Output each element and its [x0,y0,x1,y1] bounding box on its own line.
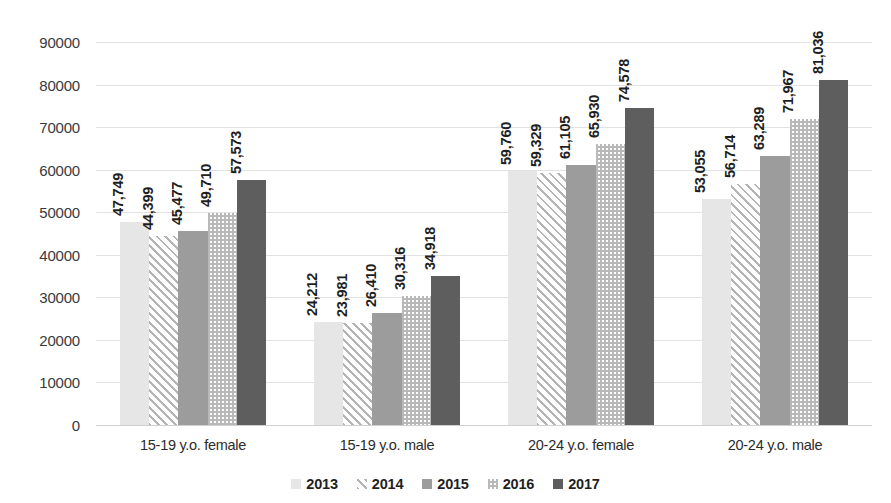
bar-2013-4[interactable] [702,199,731,425]
y-axis-tick-label: 20000 [39,331,80,348]
bar-2016-3[interactable] [596,144,625,425]
bar-2016-4[interactable] [790,119,819,425]
legend-label: 2017 [568,476,599,492]
bar-2017-2[interactable] [431,276,460,425]
bar-slot: 26,410 [372,42,401,425]
bar-value-label: 71,967 [780,70,796,113]
bar-slot: 34,918 [431,42,460,425]
bar-slot: 59,760 [508,42,537,425]
bar-value-label: 61,105 [557,116,573,159]
bar-value-label: 74,578 [616,58,632,101]
bar-value-label: 49,710 [198,164,214,207]
bar-value-label: 23,981 [334,274,350,317]
bar-2016-1[interactable] [208,213,237,425]
y-axis-tick-label: 0 [72,417,80,434]
legend-swatch-icon [422,479,432,489]
legend-swatch-icon [357,479,367,489]
bar-value-label: 57,573 [228,131,244,174]
legend-item-2016[interactable]: 2016 [488,476,534,492]
bar-group: 24,21223,98126,41030,31634,918 [314,42,460,425]
y-axis: 0100002000030000400005000060000700008000… [0,0,86,503]
bar-2013-2[interactable] [314,322,343,425]
bar-slot: 56,714 [731,42,760,425]
y-axis-tick-label: 80000 [39,76,80,93]
bar-2016-2[interactable] [402,296,431,425]
bar-value-label: 65,930 [586,95,602,138]
y-axis-tick-label: 10000 [39,374,80,391]
legend-item-2015[interactable]: 2015 [422,476,468,492]
bar-group-bars: 59,76059,32961,10565,93074,578 [508,42,654,425]
y-axis-tick-label: 50000 [39,204,80,221]
plot-area: 47,74944,39945,47749,71057,57324,21223,9… [96,42,872,425]
legend-label: 2014 [372,476,403,492]
legend-swatch-icon [291,479,301,489]
bar-2013-1[interactable] [120,222,149,425]
legend-label: 2015 [437,476,468,492]
bar-2015-2[interactable] [372,313,401,425]
legend-item-2013[interactable]: 2013 [291,476,337,492]
bar-2014-3[interactable] [537,173,566,425]
bar-value-label: 34,918 [422,227,438,270]
bar-chart: 0100002000030000400005000060000700008000… [0,0,891,503]
y-axis-tick-label: 40000 [39,246,80,263]
bar-slot: 23,981 [343,42,372,425]
y-axis-tick-label: 70000 [39,119,80,136]
bar-2015-3[interactable] [566,165,595,425]
gridline [96,425,872,426]
x-axis-category-label: 15-19 y.o. male [340,437,434,453]
legend-item-2014[interactable]: 2014 [357,476,403,492]
bar-value-label: 56,714 [722,135,738,178]
bar-value-label: 45,477 [169,182,185,225]
bar-value-label: 44,399 [140,187,156,230]
bar-value-label: 59,329 [528,123,544,166]
bar-group-bars: 47,74944,39945,47749,71057,573 [120,42,266,425]
bar-group-bars: 24,21223,98126,41030,31634,918 [314,42,460,425]
bar-group: 59,76059,32961,10565,93074,578 [508,42,654,425]
bar-value-label: 63,289 [751,107,767,150]
legend-label: 2013 [306,476,337,492]
bar-2013-3[interactable] [508,171,537,425]
bar-slot: 74,578 [625,42,654,425]
bar-slot: 57,573 [237,42,266,425]
bar-slot: 45,477 [178,42,207,425]
x-axis: 15-19 y.o. female15-19 y.o. male20-24 y.… [96,437,872,463]
bar-2015-1[interactable] [178,231,207,425]
bar-value-label: 81,036 [810,31,826,74]
bar-group: 47,74944,39945,47749,71057,573 [120,42,266,425]
bar-group-bars: 53,05556,71463,28971,96781,036 [702,42,848,425]
bar-value-label: 59,760 [498,122,514,165]
bar-slot: 49,710 [208,42,237,425]
bar-value-label: 53,055 [692,150,708,193]
bar-slot: 24,212 [314,42,343,425]
bar-2017-3[interactable] [625,108,654,425]
x-axis-category-label: 20-24 y.o. female [528,437,634,453]
y-axis-tick-label: 30000 [39,289,80,306]
bar-slot: 59,329 [537,42,566,425]
bar-slot: 81,036 [819,42,848,425]
legend-item-2017[interactable]: 2017 [553,476,599,492]
bar-value-label: 47,749 [110,173,126,216]
legend-swatch-icon [488,479,498,489]
y-axis-tick-label: 60000 [39,161,80,178]
bar-2015-4[interactable] [760,156,789,425]
chart-legend: 20132014201520162017 [0,476,891,492]
bar-slot: 44,399 [149,42,178,425]
bar-2017-1[interactable] [237,180,266,425]
bar-value-label: 26,410 [363,263,379,306]
bar-slot: 71,967 [790,42,819,425]
bar-group: 53,05556,71463,28971,96781,036 [702,42,848,425]
bar-value-label: 30,316 [392,247,408,290]
legend-label: 2016 [503,476,534,492]
legend-swatch-icon [553,479,563,489]
x-axis-category-label: 15-19 y.o. female [140,437,246,453]
bar-slot: 53,055 [702,42,731,425]
bar-2014-1[interactable] [149,236,178,425]
bar-2014-4[interactable] [731,184,760,425]
x-axis-category-label: 20-24 y.o. male [728,437,822,453]
bar-2017-4[interactable] [819,80,848,425]
bar-value-label: 24,212 [304,273,320,316]
y-axis-tick-label: 90000 [39,34,80,51]
bar-2014-2[interactable] [343,323,372,425]
bar-slot: 47,749 [120,42,149,425]
